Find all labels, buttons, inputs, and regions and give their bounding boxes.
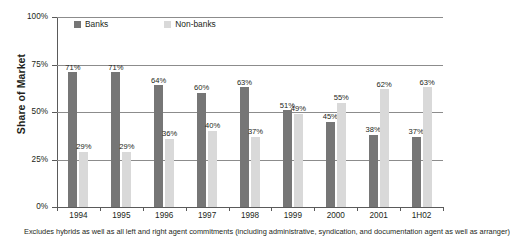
bar-banks-1999: 51% bbox=[283, 110, 292, 207]
bar-value-label: 36% bbox=[162, 130, 177, 138]
legend-swatch-icon bbox=[164, 21, 171, 28]
legend-swatch-icon bbox=[74, 21, 81, 28]
bar-non-banks-2001: 62% bbox=[380, 89, 389, 207]
chart-legend: BanksNon-banks bbox=[74, 20, 216, 28]
bar-banks-1996: 64% bbox=[154, 85, 163, 207]
x-tick-label-1H02: 1H02 bbox=[402, 212, 442, 220]
gridline-100 bbox=[57, 17, 443, 18]
y-tick-label-25: 25% bbox=[8, 156, 48, 164]
x-tick-mark-2001 bbox=[400, 207, 401, 211]
bar-banks-1998: 63% bbox=[240, 87, 249, 207]
bar-banks-1H02: 37% bbox=[412, 137, 421, 207]
x-tick-label-1995: 1995 bbox=[101, 212, 141, 220]
plot-area: 71%29%71%29%64%36%60%40%63%37%51%49%45%5… bbox=[57, 17, 443, 207]
bar-value-label: 29% bbox=[119, 143, 134, 151]
bar-value-label: 37% bbox=[408, 128, 423, 136]
x-tick-mark-1997 bbox=[229, 207, 230, 211]
y-axis-title: Share of Market bbox=[15, 29, 27, 159]
bar-non-banks-1997: 40% bbox=[208, 131, 217, 207]
y-tick-label-100: 100% bbox=[8, 13, 48, 21]
x-tick-mark-1995 bbox=[143, 207, 144, 211]
x-tick-mark-1994 bbox=[100, 207, 101, 211]
x-tick-mark-origin bbox=[57, 207, 58, 211]
x-tick-mark-1996 bbox=[186, 207, 187, 211]
x-tick-label-1994: 1994 bbox=[58, 212, 98, 220]
bar-non-banks-2000: 55% bbox=[337, 103, 346, 208]
bar-non-banks-1998: 37% bbox=[251, 137, 260, 207]
bar-value-label: 71% bbox=[108, 64, 123, 72]
chart-footnote: Excludes hybrids as well as all left and… bbox=[24, 228, 510, 236]
bar-non-banks-1994: 29% bbox=[79, 152, 88, 207]
bar-value-label: 62% bbox=[377, 81, 392, 89]
bar-value-label: 63% bbox=[237, 79, 252, 87]
bar-banks-2001: 38% bbox=[369, 135, 378, 207]
gridline-0 bbox=[57, 207, 443, 208]
x-tick-label-1996: 1996 bbox=[144, 212, 184, 220]
bar-value-label: 63% bbox=[419, 79, 434, 87]
bar-value-label: 60% bbox=[194, 84, 209, 92]
bar-banks-1995: 71% bbox=[111, 72, 120, 207]
x-tick-mark-1999 bbox=[314, 207, 315, 211]
x-tick-label-1997: 1997 bbox=[187, 212, 227, 220]
x-tick-label-1998: 1998 bbox=[230, 212, 270, 220]
legend-label: Banks bbox=[85, 20, 108, 28]
x-tick-mark-2000 bbox=[357, 207, 358, 211]
legend-item-banks[interactable]: Banks bbox=[74, 20, 108, 28]
legend-item-non-banks[interactable]: Non-banks bbox=[164, 20, 216, 28]
bar-banks-1997: 60% bbox=[197, 93, 206, 207]
x-tick-label-1999: 1999 bbox=[273, 212, 313, 220]
bar-value-label: 38% bbox=[366, 126, 381, 134]
bar-value-label: 37% bbox=[248, 128, 263, 136]
x-tick-mark-1H02 bbox=[443, 207, 444, 211]
bar-value-label: 71% bbox=[65, 64, 80, 72]
bar-value-label: 49% bbox=[291, 105, 306, 113]
bar-value-label: 55% bbox=[334, 94, 349, 102]
x-tick-mark-1998 bbox=[271, 207, 272, 211]
y-tick-label-0: 0% bbox=[8, 203, 48, 211]
legend-label: Non-banks bbox=[175, 20, 216, 28]
bar-value-label: 29% bbox=[76, 143, 91, 151]
bar-value-label: 45% bbox=[323, 113, 338, 121]
x-tick-label-2001: 2001 bbox=[359, 212, 399, 220]
bar-non-banks-1H02: 63% bbox=[423, 87, 432, 207]
bar-banks-2000: 45% bbox=[326, 122, 335, 208]
x-tick-label-2000: 2000 bbox=[316, 212, 356, 220]
bar-banks-1994: 71% bbox=[68, 72, 77, 207]
bar-value-label: 40% bbox=[205, 122, 220, 130]
y-tick-label-75: 75% bbox=[8, 61, 48, 69]
bar-non-banks-1996: 36% bbox=[165, 139, 174, 207]
bar-value-label: 64% bbox=[151, 77, 166, 85]
bar-non-banks-1999: 49% bbox=[294, 114, 303, 207]
bar-non-banks-1995: 29% bbox=[122, 152, 131, 207]
y-tick-label-50: 50% bbox=[8, 108, 48, 116]
